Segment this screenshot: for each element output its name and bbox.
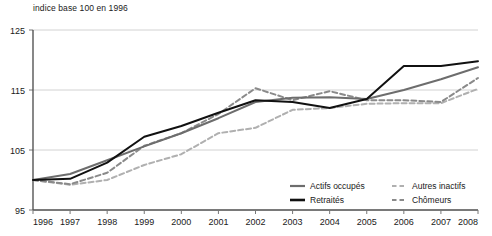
gridlines-group xyxy=(29,30,478,210)
x-axis-tick-label: 2006 xyxy=(394,217,414,227)
data-series-group xyxy=(33,61,478,185)
x-axis-tick-label: 1997 xyxy=(60,217,80,227)
x-axis-tick-label: 2008 xyxy=(458,217,478,227)
y-axis-tick-label: 115 xyxy=(11,86,25,96)
legend-label-autres-inactifs: Autres inactifs xyxy=(412,181,465,191)
y-axis-tick-labels: 95105115125 xyxy=(10,26,25,216)
legend-label-actifs-occupes: Actifs occupés xyxy=(310,181,365,191)
legend-label-retraites: Retraités xyxy=(310,195,344,205)
x-axis-tick-label: 2003 xyxy=(283,217,303,227)
x-axis-tick-label: 1996 xyxy=(33,217,53,227)
x-axis-tick-label: 2004 xyxy=(320,217,340,227)
line-chart-plot: 95105115125 1996199719981999200020012002… xyxy=(0,0,492,236)
x-axis-tick-labels: 1996199719981999200020012002200320042005… xyxy=(33,217,478,227)
legend-label-chomeurs: Chômeurs xyxy=(412,195,451,205)
x-axis-tick-label: 1999 xyxy=(134,217,154,227)
y-axis-tick-label: 125 xyxy=(10,26,25,36)
chart-container: indice base 100 en 1996 95105115125 1996… xyxy=(0,0,492,236)
x-axis-tick-label: 2002 xyxy=(245,217,265,227)
x-axis-tick-label: 2000 xyxy=(171,217,191,227)
series-line-ch-meurs xyxy=(33,78,478,184)
y-axis-tick-label: 105 xyxy=(10,146,25,156)
x-axis-tick-label: 2005 xyxy=(357,217,377,227)
x-axis-tick-label: 1998 xyxy=(97,217,117,227)
series-line-actifs-occup-s xyxy=(33,67,478,180)
y-axis-tick-label: 95 xyxy=(15,206,25,216)
series-line-autres-inactifs xyxy=(33,89,478,185)
chart-legend: Actifs occupésRetraitésAutres inactifsCh… xyxy=(290,181,465,205)
x-axis-tick-label: 2007 xyxy=(431,217,451,227)
x-axis-tick-label: 2001 xyxy=(208,217,228,227)
